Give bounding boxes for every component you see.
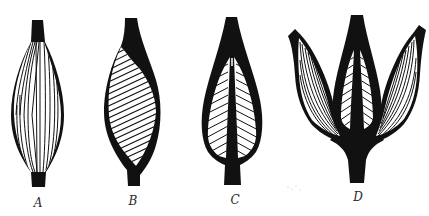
label-b: B: [129, 194, 138, 208]
label-c: C: [230, 193, 239, 207]
print-speckle: [287, 185, 300, 190]
panel-a-fusiform-muscle: [11, 20, 64, 187]
panel-c-bipennate-muscle: [202, 17, 263, 185]
panel-d-multipennate-muscle: [288, 15, 426, 183]
label-d: D: [353, 190, 363, 204]
panel-b-unipennate-muscle: [104, 18, 161, 186]
label-a: A: [34, 196, 43, 210]
muscle-c-outline: [202, 17, 263, 185]
muscle-diagram: A B C D: [0, 0, 429, 216]
muscle-d-base: [330, 135, 384, 183]
